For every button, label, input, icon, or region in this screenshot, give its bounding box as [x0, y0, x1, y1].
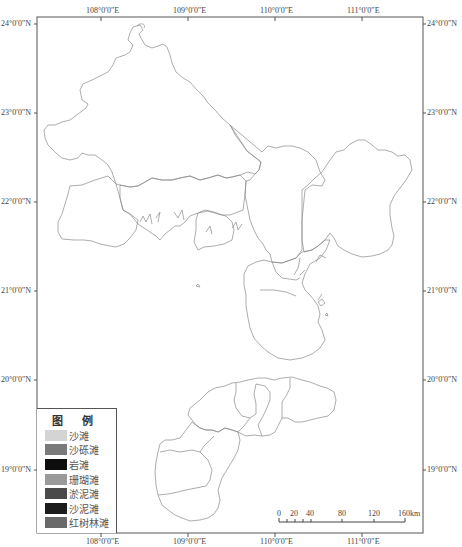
region-north[interactable]	[44, 25, 261, 187]
leizhou-inner-boundary	[260, 258, 300, 296]
legend-title: 图 例	[37, 412, 116, 428]
lat-label-left-22: 22°0′0″N	[1, 198, 31, 206]
legend-swatch	[45, 517, 67, 528]
lat-label-left-24: 24°0′0″N	[1, 20, 31, 28]
scale-label-80: 80	[338, 509, 346, 518]
legend-label: 沙泥滩	[69, 501, 99, 516]
legend-label: 淤泥滩	[69, 486, 99, 501]
scale-label-40: 40	[306, 509, 314, 518]
lat-label-left-21: 21°0′0″N	[1, 287, 31, 295]
legend-item-coral-beach: 珊瑚滩	[45, 472, 116, 487]
region-east-inland[interactable]	[230, 125, 325, 263]
region-southeast-inner[interactable]	[194, 211, 234, 250]
lon-label-bottom-110: 110°0′0″E	[260, 538, 293, 546]
lon-label-top-111: 111°0′0″E	[347, 7, 380, 15]
lat-label-right-22: 22°0′0″N	[427, 198, 457, 206]
scale-label-120: 120	[368, 509, 380, 518]
lat-label-left-19: 19°0′0″N	[1, 466, 31, 474]
legend-item-sand-beach: 沙滩	[45, 428, 116, 443]
lat-label-right-24: 24°0′0″N	[427, 20, 457, 28]
region-central[interactable]	[120, 175, 246, 240]
scale-label-160km: 160km	[398, 509, 420, 518]
legend-label: 沙砾滩	[69, 442, 99, 457]
island	[325, 313, 328, 316]
lat-label-right-19: 19°0′0″N	[427, 466, 457, 474]
lon-label-top-109: 109°0′0″E	[173, 7, 206, 15]
legend: 图 例 沙滩 沙砾滩 岩滩 珊瑚滩 淤泥滩 沙泥滩 红树林滩	[37, 408, 117, 533]
lat-label-left-20: 20°0′0″N	[1, 376, 31, 384]
lon-label-bottom-108: 108°0′0″E	[86, 538, 119, 546]
region-northeast[interactable]	[302, 140, 412, 257]
island	[196, 284, 200, 287]
legend-label: 沙滩	[69, 428, 89, 443]
region-hainan-south[interactable]	[155, 422, 240, 521]
lon-label-top-108: 108°0′0″E	[86, 7, 119, 15]
legend-item-gravel-beach: 沙砾滩	[45, 443, 116, 458]
legend-item-mangrove-flat: 红树林滩	[45, 516, 116, 531]
legend-item-rock-beach: 岩滩	[45, 457, 116, 472]
legend-swatch	[45, 444, 67, 455]
legend-swatch	[45, 474, 67, 485]
lon-label-top-110: 110°0′0″E	[260, 7, 293, 15]
longitude-ticks	[101, 17, 362, 537]
lat-label-right-23: 23°0′0″N	[427, 109, 457, 117]
lon-label-bottom-109: 109°0′0″E	[173, 538, 206, 546]
legend-label: 珊瑚滩	[69, 472, 99, 487]
legend-swatch	[45, 459, 67, 470]
hainan-inner-boundaries	[234, 378, 290, 436]
hainan-south-inner-boundaries	[158, 436, 214, 495]
region-leizhou-peninsula[interactable]	[244, 240, 330, 360]
legend-swatch	[45, 488, 67, 499]
scale-label-20: 20	[290, 509, 298, 518]
scale-bar	[279, 518, 405, 522]
lat-label-right-20: 20°0′0″N	[427, 376, 457, 384]
legend-item-sandy-mud-flat: 沙泥滩	[45, 501, 116, 516]
legend-swatch	[45, 503, 67, 514]
legend-swatch	[45, 430, 67, 441]
legend-label: 岩滩	[69, 457, 89, 472]
lat-label-right-21: 21°0′0″N	[427, 287, 457, 295]
island	[318, 299, 325, 306]
lat-label-left-23: 23°0′0″N	[1, 109, 31, 117]
legend-label: 红树林滩	[69, 515, 109, 530]
latitude-ticks	[34, 24, 426, 470]
lon-label-bottom-111: 111°0′0″E	[347, 538, 380, 546]
scale-label-0: 0	[277, 509, 281, 518]
legend-item-mud-flat: 淤泥滩	[45, 486, 116, 501]
region-hainan-north[interactable]	[188, 377, 336, 436]
